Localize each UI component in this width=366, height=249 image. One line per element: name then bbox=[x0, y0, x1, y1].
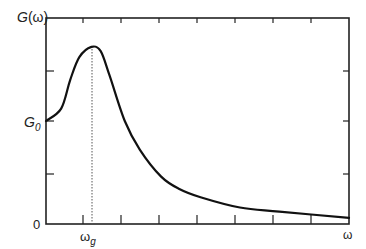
axis-ticks bbox=[46, 18, 349, 224]
y-tick-label-zero: 0 bbox=[33, 218, 40, 231]
y-axis-title: G(ω) bbox=[17, 10, 48, 24]
g-omega-curve bbox=[46, 46, 349, 217]
g0-main: G bbox=[24, 114, 35, 130]
chart-canvas bbox=[0, 0, 366, 249]
g0-sub: 0 bbox=[35, 122, 41, 133]
omega-g-sub: g bbox=[90, 236, 96, 247]
y-tick-label-g0: G0 bbox=[24, 115, 40, 133]
x-axis-title: ω bbox=[343, 229, 352, 241]
omega-g-main: ω bbox=[80, 229, 90, 244]
x-tick-label-omega-g: ωg bbox=[80, 230, 96, 247]
y-axis-title-main: G bbox=[17, 9, 28, 25]
plot-frame bbox=[46, 18, 349, 224]
y-axis-title-arg: (ω) bbox=[28, 9, 48, 25]
